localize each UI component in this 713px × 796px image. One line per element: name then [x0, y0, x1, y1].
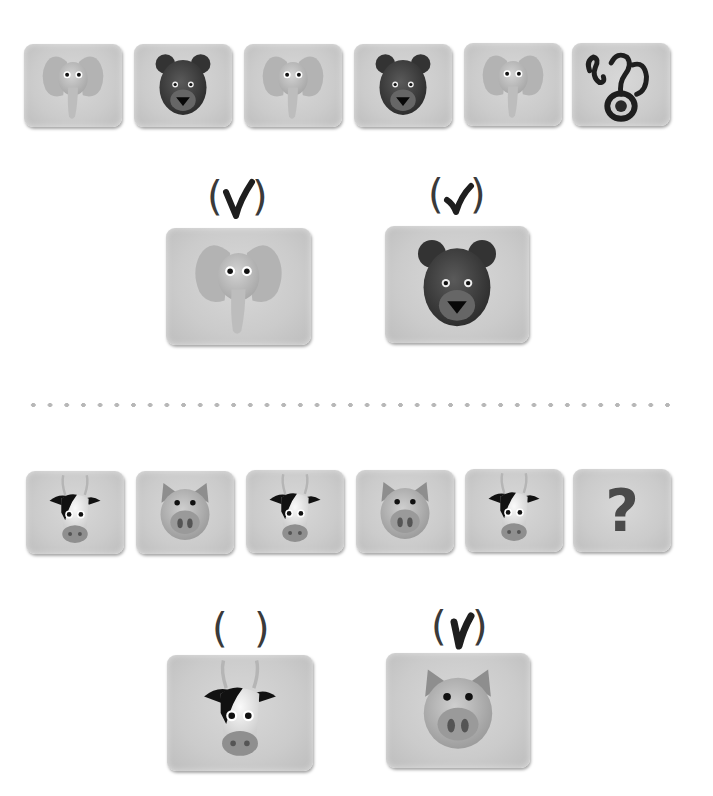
- elephant-icon: [244, 44, 342, 127]
- pig-icon: [386, 653, 530, 768]
- cow-icon: [167, 655, 313, 771]
- sequence-card-elephant: [464, 43, 562, 126]
- option-card-pig[interactable]: [386, 653, 530, 768]
- option-card-elephant[interactable]: [166, 228, 311, 345]
- sequence-card-elephant: [24, 44, 122, 127]
- sequence-card-cow: [246, 470, 344, 553]
- cow-icon: [246, 470, 344, 553]
- question-mark: ?: [573, 469, 671, 552]
- sequence-card-pig: [136, 471, 234, 554]
- cow-icon: [465, 469, 563, 552]
- cow-icon: [26, 471, 124, 554]
- checkmark-icon[interactable]: [443, 180, 475, 216]
- open-paren: (: [428, 174, 444, 214]
- elephant-icon: [24, 44, 122, 127]
- scribbled-question-mark-icon: [572, 43, 670, 126]
- empty-answer-slot[interactable]: [228, 616, 250, 646]
- checkmark-icon[interactable]: [449, 612, 475, 650]
- option-card-bear[interactable]: [385, 226, 529, 343]
- sequence-card-unknown[interactable]: ?: [573, 469, 671, 552]
- open-paren: (: [212, 608, 228, 648]
- sequence-card-unknown[interactable]: [572, 43, 670, 126]
- elephant-icon: [464, 43, 562, 126]
- checkmark-icon[interactable]: [222, 178, 256, 220]
- dotted-divider: [25, 402, 675, 408]
- sequence-card-cow: [26, 471, 124, 554]
- open-paren: (: [207, 176, 223, 216]
- sequence-card-elephant: [244, 44, 342, 127]
- bear-icon: [354, 44, 452, 127]
- elephant-icon: [166, 228, 311, 345]
- pig-icon: [136, 471, 234, 554]
- sequence-card-bear: [354, 44, 452, 127]
- pig-icon: [356, 470, 454, 553]
- sequence-card-bear: [134, 44, 232, 127]
- close-paren: ): [254, 608, 270, 648]
- sequence-card-cow: [465, 469, 563, 552]
- option-card-cow[interactable]: [167, 655, 313, 771]
- bear-icon: [134, 44, 232, 127]
- open-paren: (: [431, 606, 447, 646]
- sequence-card-pig: [356, 470, 454, 553]
- bear-icon: [385, 226, 529, 343]
